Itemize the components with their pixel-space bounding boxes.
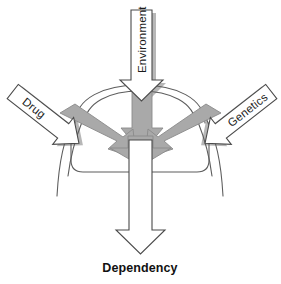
diagram-canvas: Dependency causal convergence diagram [0,0,281,284]
dependency-arrow[interactable] [116,140,165,254]
dependency-diagram: Dependency causal convergence diagram [0,0,281,284]
dependency-arrow-group[interactable] [116,140,165,254]
environment-label: Environment [136,6,148,73]
dependency-label: Dependency [102,261,177,275]
environment-arrow-group[interactable]: Environment [120,6,163,101]
